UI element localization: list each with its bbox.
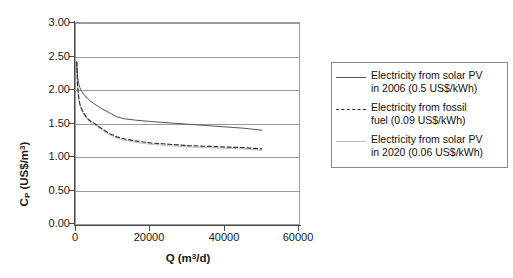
x-axis-title-close: /d)	[196, 252, 210, 264]
legend-rule	[336, 109, 366, 110]
legend-label-line1: Electricity from solar PV	[371, 133, 482, 145]
plot-area	[75, 22, 300, 225]
y-axis-title-close: )	[18, 142, 30, 146]
chart-figure: 0.000.501.001.502.002.503.00 02000040000…	[0, 0, 513, 278]
legend-rule	[336, 77, 366, 78]
y-axis-title-unit: (US$/m	[18, 150, 30, 193]
chart-legend: Electricity from solar PVin 2006 (0.5 US…	[331, 62, 508, 168]
x-tick-label: 20000	[119, 231, 179, 243]
series-line	[77, 62, 262, 149]
legend-label: Electricity from solar PVin 2020 (0.06 U…	[371, 133, 483, 158]
legend-item[interactable]: Electricity from solar PVin 2006 (0.5 US…	[336, 69, 503, 94]
legend-item[interactable]: Electricity from fossilfuel (0.09 US$/kW…	[336, 101, 503, 126]
y-tick-label: 2.50	[24, 51, 70, 62]
legend-label: Electricity from solar PVin 2006 (0.5 US…	[371, 69, 482, 94]
y-axis-title-symbol: C	[18, 198, 30, 206]
legend-label-line1: Electricity from solar PV	[371, 69, 482, 81]
x-tick-label: 0	[45, 231, 105, 243]
y-axis-title-superscript: 3	[18, 145, 27, 149]
x-tick-label: 60000	[268, 231, 328, 243]
legend-line-swatch-icon	[336, 135, 366, 148]
y-tick-label: 3.00	[24, 17, 70, 28]
x-tick-label: 40000	[194, 231, 254, 243]
x-axis-title: Q (m3/d)	[75, 252, 301, 264]
legend-rule	[336, 141, 366, 142]
y-axis-title-subscript: P	[23, 193, 32, 198]
series-line	[77, 62, 262, 130]
y-axis-title: CP (US$/m3)	[8, 62, 28, 182]
x-axis-title-symbol: Q (m	[166, 252, 192, 264]
legend-item[interactable]: Electricity from solar PVin 2020 (0.06 U…	[336, 133, 503, 158]
legend-label-line1: Electricity from fossil	[371, 101, 467, 113]
legend-line-swatch-icon	[336, 71, 366, 84]
series-lines	[76, 23, 299, 224]
x-axis-line	[74, 225, 301, 226]
legend-label: Electricity from fossilfuel (0.09 US$/kW…	[371, 101, 467, 126]
legend-label-line2: fuel (0.09 US$/kWh)	[371, 114, 466, 126]
series-line	[77, 63, 262, 151]
y-tick-label: 2.00	[24, 84, 70, 95]
legend-line-swatch-icon	[336, 103, 366, 116]
legend-label-line2: in 2020 (0.06 US$/kWh)	[371, 146, 483, 158]
legend-label-line2: in 2006 (0.5 US$/kWh)	[371, 82, 477, 94]
